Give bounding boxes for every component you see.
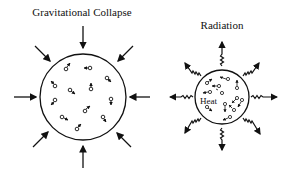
particle-icon bbox=[216, 89, 224, 95]
particle-icon bbox=[235, 80, 238, 90]
particle-icon bbox=[205, 105, 212, 111]
ray-up-left-icon bbox=[185, 63, 201, 76]
ray-up-right-icon bbox=[243, 63, 259, 76]
ray-down-left-icon bbox=[185, 118, 201, 133]
inward-arrows bbox=[14, 26, 150, 168]
arrow-bottom-left-icon bbox=[33, 132, 48, 147]
arrow-top-right-icon bbox=[118, 46, 133, 61]
gravitational-collapse-panel: Gravitational Collapse bbox=[14, 6, 150, 168]
arrow-bottom-right-icon bbox=[117, 133, 131, 147]
ray-up-icon bbox=[221, 42, 224, 66]
radiation-rays bbox=[170, 42, 277, 150]
heat-label: Heat bbox=[200, 96, 217, 106]
particle-icon bbox=[238, 98, 244, 107]
particle-icon bbox=[229, 105, 236, 112]
radiation-title: Radiation bbox=[201, 19, 244, 31]
particle-icon bbox=[223, 102, 226, 112]
diagram-canvas: Gravitational Collapse bbox=[0, 0, 288, 175]
gas-particles bbox=[51, 63, 113, 131]
particle-icon bbox=[84, 66, 92, 70]
particle-icon bbox=[223, 115, 232, 120]
ray-left-icon bbox=[170, 96, 193, 99]
particle-icon bbox=[220, 77, 230, 81]
particle-icon bbox=[109, 97, 113, 105]
particle-icon bbox=[68, 88, 75, 94]
particle-icon bbox=[203, 90, 212, 93]
radiation-panel: Radiation Heat bbox=[170, 19, 277, 150]
ray-right-icon bbox=[251, 96, 277, 99]
particle-icon bbox=[101, 115, 106, 122]
particle-icon bbox=[205, 79, 212, 85]
particle-icon bbox=[75, 124, 81, 131]
particle-icon bbox=[212, 84, 221, 87]
ray-down-right-icon bbox=[243, 118, 260, 134]
particle-icon bbox=[64, 63, 70, 71]
particle-icon bbox=[60, 115, 68, 120]
particle-icon bbox=[89, 83, 93, 91]
gravitational-collapse-title: Gravitational Collapse bbox=[32, 6, 131, 18]
particle-icon bbox=[232, 96, 239, 103]
collapsing-cloud-circle bbox=[40, 54, 126, 140]
particle-icon bbox=[105, 76, 111, 82]
particle-icon bbox=[51, 98, 57, 105]
ray-down-icon bbox=[221, 128, 224, 150]
particle-icon bbox=[51, 81, 57, 88]
particle-icon bbox=[83, 106, 90, 113]
arrow-top-left-icon bbox=[35, 46, 50, 61]
